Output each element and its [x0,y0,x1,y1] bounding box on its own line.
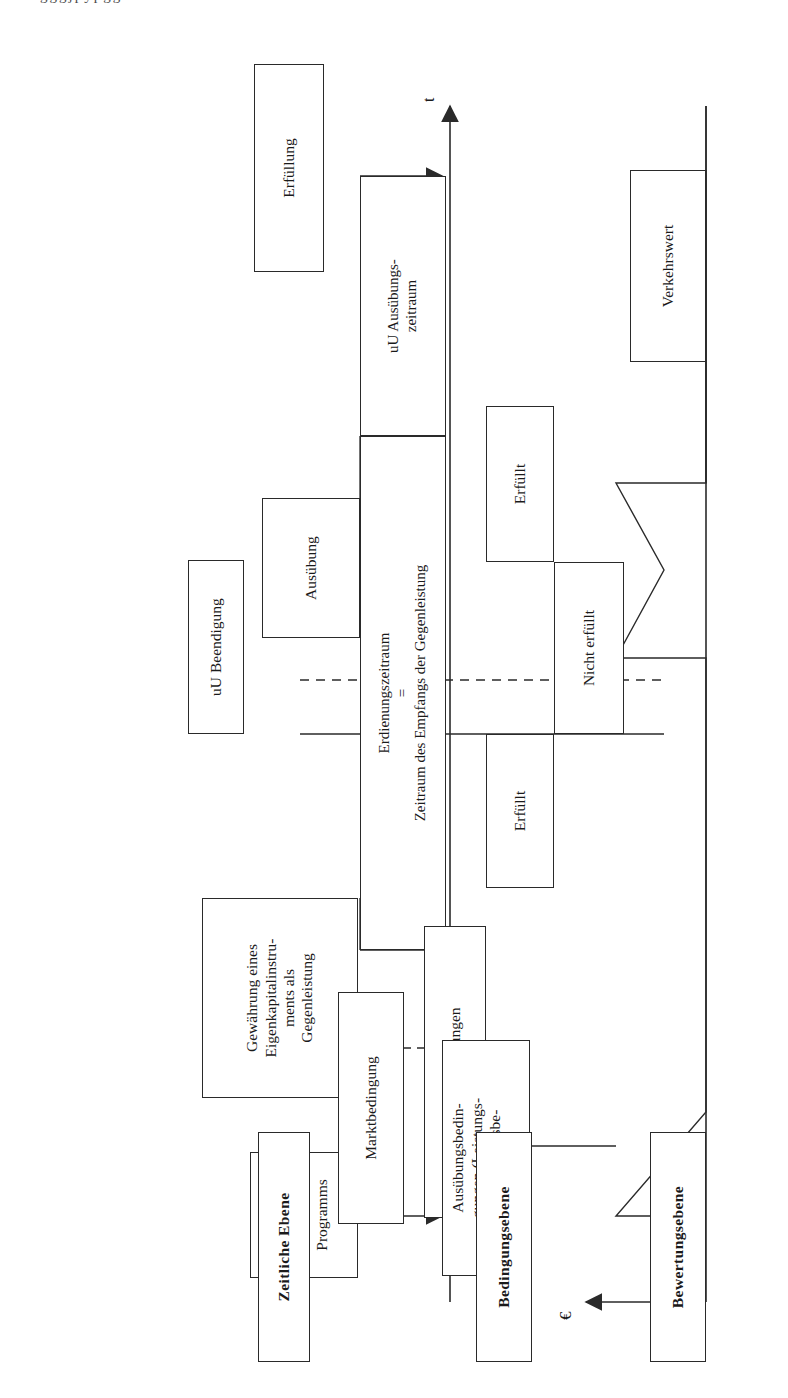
value-axis-label: € [556,1312,576,1321]
box-fulfilment[interactable]: Erfüllung [254,64,324,272]
box-grant[interactable]: Gewährung eines Eigenkapitalinstru- ment… [202,898,358,1098]
diagram-stage: Verabschiedung des Programms Gewährung e… [0,0,788,1398]
figure-page: gggjpypgg [0,0,788,1398]
band-vesting-period: Erdienungszeitraum = Zeitraum des Empfan… [360,436,446,950]
box-not-fulfilled[interactable]: Nicht erfüllt [554,562,624,734]
label-valuation-level: Bewertungsebene [650,1132,706,1362]
time-axis-label: t [420,98,438,102]
box-possible-termination[interactable]: uU Beendigung [188,560,244,734]
label-time-level: Zeitliche Ebene [258,1132,310,1362]
box-fulfilled-left[interactable]: Erfüllt [486,734,554,888]
label-condition-level: Bedingungsebene [476,1132,532,1362]
box-market-condition[interactable]: Marktbedingung [338,992,404,1224]
box-fair-value[interactable]: Verkehrswert [630,170,706,362]
box-fulfilled-right[interactable]: Erfüllt [486,406,554,562]
band-possible-exercise-period: uU Ausübungs- zeitraum [360,176,446,436]
box-exercise[interactable]: Ausübung [262,498,360,638]
